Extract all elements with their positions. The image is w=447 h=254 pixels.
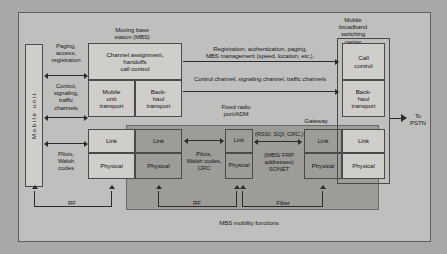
rf-right-riser-b: [236, 191, 237, 206]
fixed-radio-port-title: Fixed radio port/ADM: [205, 103, 267, 117]
frp-physical-box[interactable]: Physical: [225, 153, 253, 179]
arrow-head-mbs-frp-right: [220, 138, 224, 144]
mobile-unit-box[interactable]: Mobile unit: [25, 44, 43, 187]
label-rssi-sqi-crc: (RSSI, SQI, CRC,): [253, 130, 305, 137]
arrow-head-pilots-right: [84, 141, 88, 147]
mbs-physical-right-box[interactable]: Physical: [135, 153, 182, 179]
mbsc-outer-frame: [337, 38, 390, 184]
mbs-backhaul-transport-box[interactable]: Back- haul transport: [135, 80, 182, 117]
arrow-line-control-channel: [183, 91, 336, 92]
fiber-riser-b: [322, 191, 323, 206]
label-pilots-walsh-crc: Pilots, Walsh codes, CRC: [182, 150, 226, 172]
mobile-unit-label: Mobile unit: [30, 92, 38, 139]
rf-left-arrow-b: [109, 185, 115, 189]
moving-base-station-title: Moving base station (MBS): [87, 26, 177, 40]
arrow-line-pilots: [47, 143, 85, 144]
mbs-physical-left-box[interactable]: Physical: [88, 153, 135, 179]
label-fiber: Fiber: [269, 199, 297, 206]
label-rf-right: RF: [184, 199, 210, 206]
diagram-root: Moving base station (MBS) Mobile broadba…: [0, 0, 447, 254]
mbs-link-left-box[interactable]: Link: [88, 129, 135, 153]
arrow-head-pilots-left: [44, 141, 48, 147]
arrow-head-paging-right: [84, 73, 88, 79]
connector-mbs-to-registration: [183, 61, 184, 62]
frp-link-box[interactable]: Link: [225, 129, 253, 153]
arrow-head-registration: [335, 59, 339, 65]
label-pilots-walsh-codes: Pilots, Walsh codes: [45, 150, 87, 172]
arrow-head-frp-gateway-right: [298, 139, 302, 145]
diagram-canvas: Moving base station (MBS) Mobile broadba…: [18, 12, 431, 242]
label-paging-access-registration: Paging, access, registration: [45, 42, 87, 64]
arrow-line-paging: [47, 75, 85, 76]
rf-left-riser-b: [111, 191, 112, 206]
arrow-head-mbs-frp-left: [184, 138, 188, 144]
mbs-link-right-box[interactable]: Link: [135, 129, 182, 153]
label-mbs-mobility-functions: MBS mobility functions: [179, 219, 319, 226]
rf-right-arrow-a: [156, 185, 162, 189]
label-control-signaling-traffic: Control, signaling, traffic channels: [45, 82, 87, 111]
arrow-line-frp-gateway: [257, 141, 299, 142]
arrow-line-control: [47, 117, 85, 118]
arrow-head-paging-left: [44, 73, 48, 79]
arrow-line-registration: [183, 61, 336, 62]
arrow-head-control-right: [84, 115, 88, 121]
label-rf-left: RF: [59, 199, 85, 206]
gateway-title: Gateway: [291, 117, 341, 124]
mbs-mobile-unit-transport-box[interactable]: Mobile unit transport: [88, 80, 135, 117]
arrow-head-control-left: [44, 115, 48, 121]
arrow-line-mbs-frp: [187, 140, 221, 141]
fiber-arrow-b: [320, 185, 326, 189]
label-to-pstn: To PSTN: [407, 112, 429, 126]
fiber-arrow-a: [240, 185, 246, 189]
label-control-channel-signaling: Control channel, signaling channel, traf…: [177, 75, 343, 82]
rf-right-riser-a: [158, 191, 159, 206]
rf-left-riser-a: [34, 191, 35, 206]
arrow-head-frp-gateway-left: [254, 139, 258, 145]
fiber-riser-a: [242, 191, 243, 206]
arrow-head-control-channel: [335, 89, 339, 95]
mbs-control-box[interactable]: Channel assignment, handoffs call contro…: [88, 43, 182, 80]
label-mbs-frp-sonet: (MBS/ FRP addresses) SONET: [253, 151, 305, 173]
rf-left-arrow-a: [32, 185, 38, 189]
label-registration-authentication: Registration, authentication, paging, MB…: [177, 45, 343, 59]
